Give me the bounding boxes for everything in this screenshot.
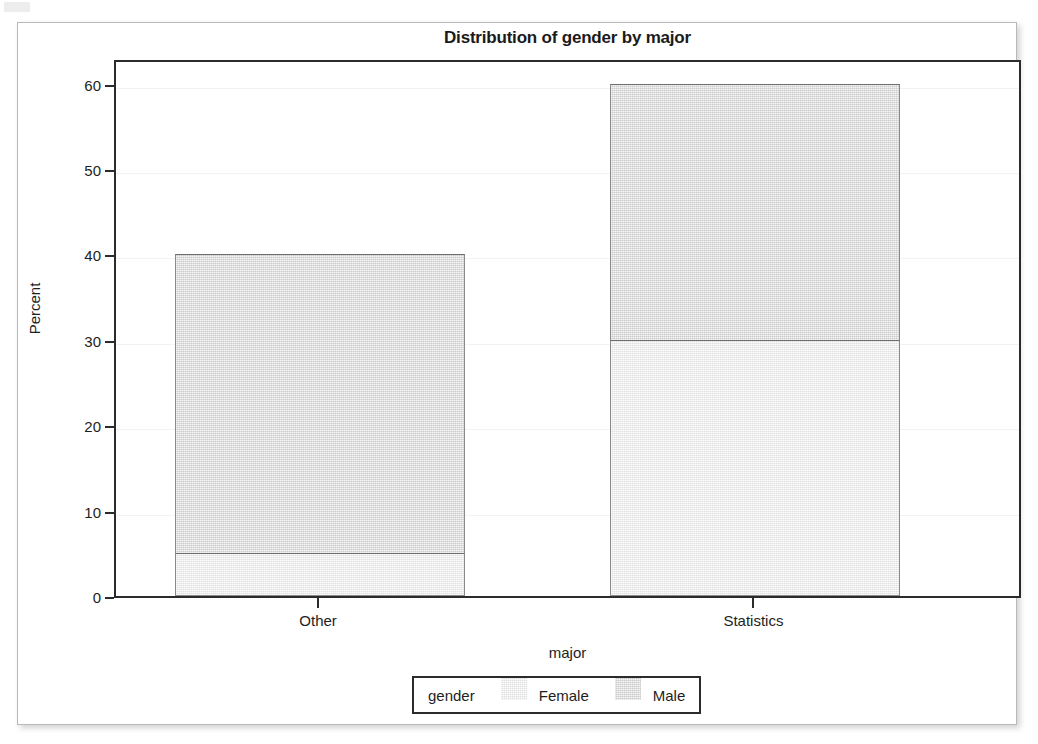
plot-area	[114, 60, 1021, 598]
bar-group-statistics[interactable]	[610, 60, 900, 596]
legend-entries: FemaleMale	[501, 678, 686, 712]
y-axis-label: Percent	[26, 249, 43, 369]
y-axis-tick-mark	[105, 512, 114, 514]
scan-artifact	[4, 2, 30, 12]
y-axis-tick-mark	[105, 255, 114, 257]
bar-segment-statistics-male[interactable]	[610, 84, 900, 340]
legend: gender FemaleMale	[412, 676, 701, 714]
y-axis-tick-label: 60	[57, 77, 101, 94]
bar-group-other[interactable]	[175, 60, 465, 596]
y-axis-tick-label: 30	[57, 333, 101, 350]
x-axis-tick-mark	[752, 598, 754, 608]
y-axis-tick-mark	[105, 597, 114, 599]
legend-label-female: Female	[539, 687, 589, 704]
legend-swatch-male-icon	[615, 678, 641, 700]
legend-entry-female[interactable]: Female	[501, 678, 589, 712]
y-axis-tick-label: 40	[57, 247, 101, 264]
y-axis-tick-label: 50	[57, 162, 101, 179]
x-axis-label: major	[114, 644, 1021, 661]
y-axis-tick-label: 20	[57, 418, 101, 435]
y-axis-tick-mark	[105, 85, 114, 87]
legend-entry-male[interactable]: Male	[615, 678, 686, 712]
page-title: Distribution of gender by major	[114, 28, 1021, 48]
y-axis-tick-mark	[105, 426, 114, 428]
bar-segment-other-female[interactable]	[175, 553, 465, 596]
legend-label-male: Male	[653, 687, 686, 704]
x-axis-tick-mark	[317, 598, 319, 608]
legend-title: gender	[428, 687, 475, 704]
x-axis-tick-label-other: Other	[218, 612, 418, 629]
y-axis-tick-mark	[105, 170, 114, 172]
x-axis-tick-label-statistics: Statistics	[653, 612, 853, 629]
chart-figure: Distribution of gender by major Percent …	[0, 0, 1038, 744]
y-axis-tick-label: 0	[57, 589, 101, 606]
y-axis-tick-labels: 0102030405060	[52, 60, 101, 598]
legend-swatch-female-icon	[501, 678, 527, 700]
y-axis-tick-label: 10	[57, 504, 101, 521]
y-axis-tick-mark	[105, 341, 114, 343]
bar-segment-statistics-female[interactable]	[610, 340, 900, 596]
bar-segment-other-male[interactable]	[175, 254, 465, 553]
